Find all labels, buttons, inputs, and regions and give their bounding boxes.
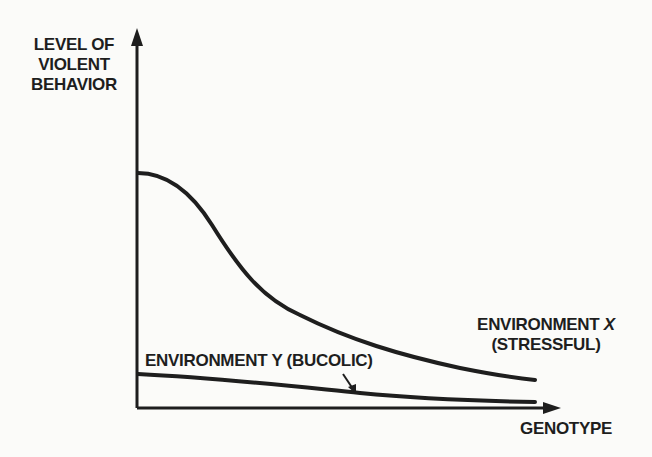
y-axis-label-line-3: BEHAVIOR [22, 75, 126, 95]
y-axis-label-line-2: VIOLENT [22, 55, 126, 75]
environment-x-label-line-1: ENVIRONMENT X [468, 315, 624, 335]
curve-environment-y [138, 374, 535, 402]
y-axis-label-line-1: LEVEL OF [22, 35, 126, 55]
y-axis-arrowhead-icon [131, 28, 143, 46]
environment-x-label: ENVIRONMENT X (STRESSFUL) [468, 315, 624, 355]
x-axis-label: GENOTYPE [520, 419, 612, 439]
x-axis-arrowhead-icon [543, 402, 561, 414]
environment-x-label-variable: X [604, 315, 615, 334]
environment-x-label-line-2: (STRESSFUL) [468, 335, 624, 355]
environment-x-label-prefix: ENVIRONMENT [477, 315, 604, 334]
environment-y-label: ENVIRONMENT Y (BUCOLIC) [145, 351, 373, 371]
y-axis-label: LEVEL OF VIOLENT BEHAVIOR [22, 35, 126, 95]
